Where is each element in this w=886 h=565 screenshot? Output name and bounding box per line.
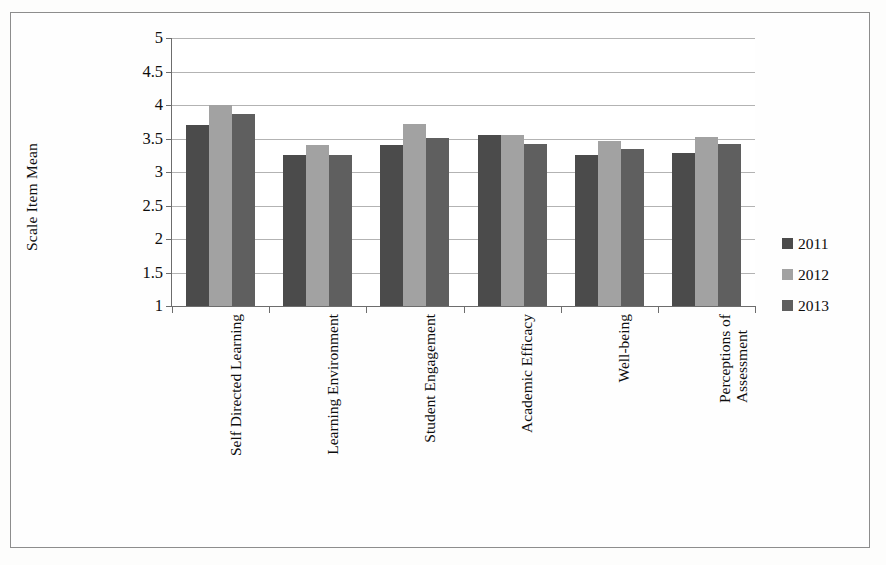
y-axis-tick-label: 2.5 (142, 196, 163, 216)
x-axis-category-label-line: Assessment (734, 314, 751, 403)
x-axis-tick (366, 306, 367, 313)
legend-item-2013[interactable]: 2013 (782, 290, 829, 321)
legend-label: 2013 (798, 297, 829, 315)
x-axis-tick (561, 306, 562, 313)
x-axis-category-label-line: Self Directed Learning (227, 314, 244, 456)
x-axis-category-label: Student Engagement (421, 314, 438, 443)
legend-label: 2012 (798, 266, 829, 284)
legend-swatch-icon (782, 269, 793, 280)
bar-2013-academic-efficacy (524, 144, 547, 306)
y-axis-title: Scale Item Mean (23, 102, 41, 292)
legend-item-2012[interactable]: 2012 (782, 259, 829, 290)
x-axis-tick (755, 306, 756, 313)
y-axis-tick-label: 1 (155, 296, 163, 316)
chart-legend: 201120122013 (782, 228, 829, 321)
legend-swatch-icon (782, 238, 793, 249)
x-axis-category-label: Learning Environment (324, 314, 341, 455)
y-axis-tick-label: 5 (155, 28, 163, 48)
x-axis-category-label-line: Perceptions of (716, 314, 733, 403)
bar-2013-student-engagement (426, 138, 449, 306)
bar-2011-self-directed-learning (186, 125, 209, 306)
bar-group (172, 38, 269, 306)
bar-group (269, 38, 366, 306)
plot-area: 11.522.533.544.55 (172, 38, 755, 306)
legend-swatch-icon (782, 300, 793, 311)
x-axis-tick (464, 306, 465, 313)
y-axis-tick-label: 1.5 (142, 263, 163, 283)
x-axis-category-label: Well-being (615, 314, 632, 382)
x-axis-category-label: Academic Efficacy (518, 314, 535, 433)
x-axis-tick (172, 306, 173, 313)
x-axis-category-label: Perceptions ofAssessment (716, 314, 751, 403)
x-axis-tick (269, 306, 270, 313)
x-axis-category-label-line: Academic Efficacy (518, 314, 535, 433)
bar-2011-perceptions-of-assessment (672, 153, 695, 306)
bar-2013-well-being (621, 149, 644, 306)
y-axis-tick-label: 3.5 (142, 129, 163, 149)
bar-2012-well-being (598, 141, 621, 306)
bar-2013-self-directed-learning (232, 114, 255, 306)
legend-item-2011[interactable]: 2011 (782, 228, 829, 259)
bar-group (366, 38, 463, 306)
bar-2012-academic-efficacy (501, 135, 524, 306)
bar-2012-perceptions-of-assessment (695, 137, 718, 306)
x-axis-category-label-line: Learning Environment (324, 314, 341, 455)
x-axis-category-label-line: Well-being (615, 314, 632, 382)
bar-2012-self-directed-learning (209, 105, 232, 306)
bar-2011-student-engagement (380, 145, 403, 306)
legend-label: 2011 (798, 235, 828, 253)
bar-2011-academic-efficacy (478, 135, 501, 306)
y-axis-tick-label: 4.5 (142, 62, 163, 82)
chart-figure: Scale Item Mean 11.522.533.544.55 Self D… (0, 0, 886, 565)
y-axis-tick-label: 4 (155, 95, 163, 115)
bar-2011-learning-environment (283, 155, 306, 306)
bar-group (464, 38, 561, 306)
x-axis-category-label-line: Student Engagement (421, 314, 438, 443)
bar-2012-learning-environment (306, 145, 329, 306)
bar-2011-well-being (575, 155, 598, 306)
x-axis-category-label: Self Directed Learning (227, 314, 244, 456)
y-axis-tick-label: 2 (155, 229, 163, 249)
bar-group (561, 38, 658, 306)
bar-group (658, 38, 755, 306)
x-axis-tick (658, 306, 659, 313)
bar-2013-perceptions-of-assessment (718, 144, 741, 306)
y-axis-tick-label: 3 (155, 162, 163, 182)
bar-2013-learning-environment (329, 155, 352, 306)
bar-2012-student-engagement (403, 124, 426, 306)
